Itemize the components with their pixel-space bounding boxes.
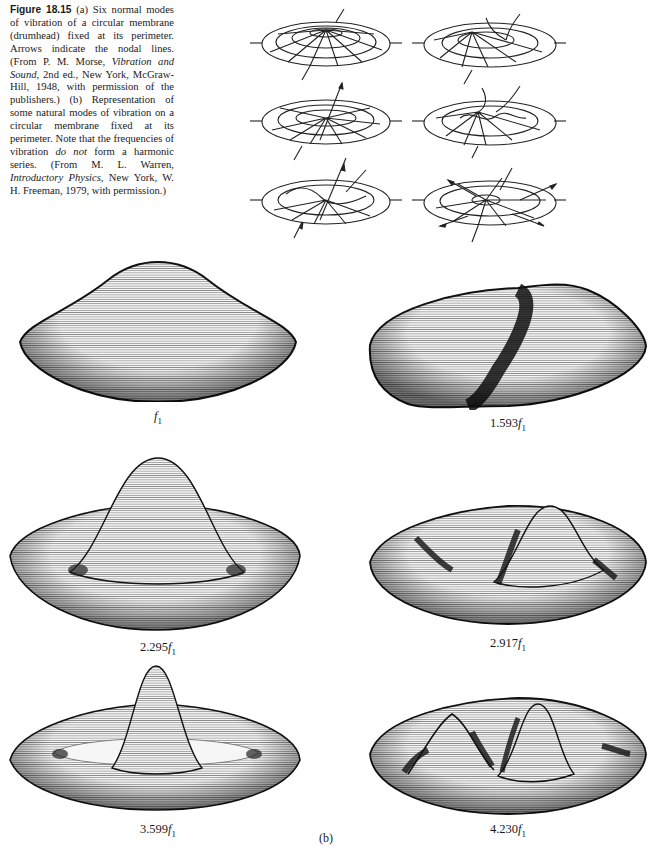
frequency-label-2917f1: 2.917f1: [428, 636, 588, 653]
mode-shape-2917f1: [368, 500, 648, 630]
mode-shape-3599f1: [8, 660, 308, 820]
caption-part-b-emphasis: do not: [56, 146, 87, 157]
figure-caption: Figure 18.15 (a) Six normal modes of vib…: [10, 4, 174, 198]
frequency-label-1593f1: 1.593f1: [428, 416, 588, 433]
panel-b-label: (b): [319, 831, 333, 846]
mode-01-nodal-diagram: [250, 9, 402, 80]
nodal-diagram-grid: [250, 0, 659, 255]
frequency-label-f1: f1: [78, 409, 238, 426]
figure-label: Figure 18.15: [10, 4, 72, 15]
mode-31-nodal-diagram: [412, 168, 566, 242]
frequency-label-2295f1: 2.295f1: [78, 640, 238, 657]
mode-shape-2295f1: [8, 448, 308, 638]
caption-part-b-book: Introductory Physics: [10, 172, 101, 183]
mode-12-nodal-diagram: [250, 158, 402, 238]
mode-02-nodal-diagram: [412, 14, 566, 84]
mode-shape-f1: [8, 252, 308, 402]
mode-11-nodal-diagram: [250, 83, 402, 160]
mode-shape-1593f1: [368, 280, 648, 410]
frequency-label-3599f1: 3.599f1: [78, 822, 238, 839]
frequency-label-4230f1: 4.230f1: [428, 822, 588, 839]
mode-shape-4230f1: [368, 694, 648, 818]
panel-a-nodal-diagrams: (a): [250, 0, 659, 255]
mode-21-nodal-diagram: [412, 86, 566, 158]
